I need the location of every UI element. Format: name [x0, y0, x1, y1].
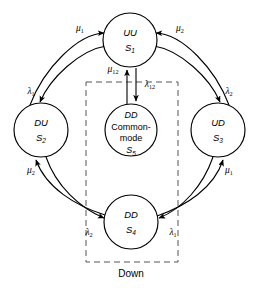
dd-label: DD: [124, 209, 138, 220]
ud-label: UD: [211, 117, 225, 128]
rate-label-lambda2-lower-left: λ2: [84, 227, 92, 238]
node-dd-common-mode-s5[interactable]: DD Common- mode S5: [105, 104, 157, 156]
edge-mu1-du-to-uu: [30, 33, 104, 105]
du-circle[interactable]: [14, 103, 68, 157]
node-uu-s1[interactable]: UU S1: [103, 13, 157, 67]
dd-circle[interactable]: [104, 195, 158, 249]
node-dd-s4[interactable]: DD S4: [104, 195, 158, 249]
node-du-s2[interactable]: DU S2: [14, 103, 68, 157]
common-mode-dd-label: DD: [125, 110, 138, 120]
edge-lambda1-ud-to-dd: [159, 157, 213, 218]
rate-label-mu1-lower-right: μ1: [224, 165, 233, 176]
edge-mu2-dd-to-du: [36, 160, 105, 215]
rate-label-lambda2-upper-right: λ2: [224, 86, 232, 97]
edge-lambda2-uu-to-ud: [154, 46, 220, 102]
edge-lambda1-uu-to-du: [40, 46, 106, 102]
rate-label-lambda12: λ12: [144, 79, 155, 90]
ud-circle[interactable]: [191, 103, 245, 157]
edge-mu1-dd-to-ud: [157, 160, 223, 216]
rate-label-lambda1-upper-left: λ1: [26, 86, 34, 97]
down-group-label: Down: [118, 268, 144, 279]
uu-label: UU: [123, 27, 137, 38]
node-ud-s3[interactable]: UD S3: [191, 103, 245, 157]
diagram-canvas: UU S1 DU S2 UD S3 DD S4: [0, 0, 260, 288]
du-label: DU: [34, 117, 48, 128]
uu-circle[interactable]: [103, 13, 157, 67]
common-mode-line2: mode: [120, 133, 143, 143]
edge-mu2-ud-to-uu: [156, 33, 229, 105]
rate-label-mu12: μ12: [107, 64, 119, 75]
rate-label-mu1-upper-left: μ1: [75, 23, 84, 34]
common-mode-line1: Common-: [111, 122, 151, 132]
state-transition-diagram: UU S1 DU S2 UD S3 DD S4: [0, 0, 260, 288]
rate-label-lambda1-lower-right: λ1: [168, 227, 176, 238]
rate-label-mu2-lower-left: μ2: [26, 165, 35, 176]
rate-label-mu2-upper-right: μ2: [175, 23, 184, 34]
